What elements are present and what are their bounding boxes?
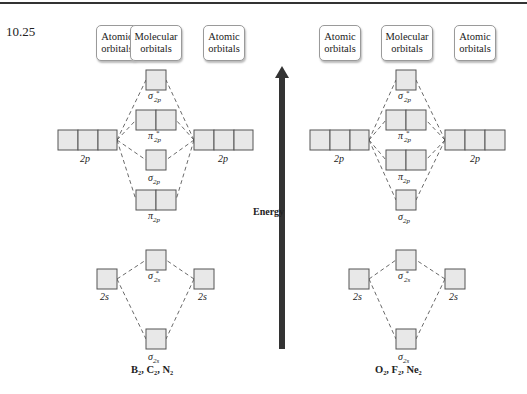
sigma-star-2p-box: [146, 70, 166, 90]
molecules-label-right: O₂, F₂, Ne₂: [375, 364, 422, 375]
label-sigma-2p-r: σ2p: [398, 211, 410, 225]
label-2s-right-r: 2s: [449, 291, 458, 302]
label-sigma-star-2s-r: σ*2s: [398, 270, 410, 284]
label-sigma-star-2p: σ*2p: [148, 90, 161, 104]
label-2s-left: 2s: [100, 291, 109, 302]
label-pi-star-2p: π*2p: [148, 130, 161, 144]
ao-2p-right-boxes: [194, 130, 253, 150]
label-sigma-2s: σ2s: [148, 351, 159, 365]
molecules-label-left: B₂, C₂, N₂: [131, 364, 173, 375]
label-sigma-2s-r: σ2s: [398, 351, 409, 365]
label-sigma-star-2p-r: σ*2p: [398, 90, 411, 104]
label-2s-left-r: 2s: [353, 291, 362, 302]
label-2p-left: 2p: [80, 153, 90, 164]
right-diagram: [310, 70, 505, 349]
label-pi-2p-r: π2p: [398, 171, 410, 185]
label-2p-left-r: 2p: [334, 153, 344, 164]
label-2p-right: 2p: [218, 153, 228, 164]
label-sigma-2p: σ2p: [148, 172, 160, 186]
ao-2p-left-boxes: [58, 130, 117, 150]
label-sigma-star-2s: σ*2s: [148, 270, 160, 284]
mo-diagram-graphics: .b { fill:#e8e8e8; stroke:#555; stroke-w…: [0, 0, 527, 394]
label-2s-right: 2s: [198, 291, 207, 302]
label-2p-right-r: 2p: [470, 153, 480, 164]
label-pi-star-2p-r: π*2p: [398, 130, 411, 144]
label-pi-2p: π2p: [148, 210, 160, 224]
energy-axis-label: Energy: [253, 206, 284, 217]
